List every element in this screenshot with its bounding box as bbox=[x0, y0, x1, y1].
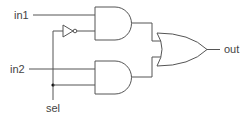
input-label-in1: in1 bbox=[14, 9, 29, 21]
input-label-in2: in2 bbox=[10, 63, 25, 75]
not-gate bbox=[63, 25, 73, 37]
not-gate-bubble bbox=[73, 29, 77, 33]
and-gate-1 bbox=[95, 7, 132, 40]
and-gate-2 bbox=[95, 61, 132, 94]
circuit-diagram: in1 in2 sel out bbox=[0, 0, 249, 124]
output-label-out: out bbox=[224, 43, 239, 55]
wire-and2-to-or bbox=[132, 57, 162, 77]
or-gate bbox=[157, 33, 207, 66]
input-label-sel: sel bbox=[46, 102, 60, 114]
wire-and1-to-or bbox=[132, 23, 162, 41]
